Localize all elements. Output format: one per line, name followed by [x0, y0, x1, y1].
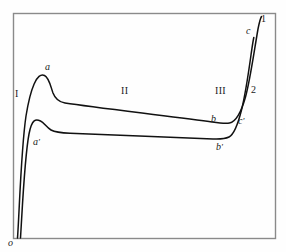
region-label-ii: II [121, 86, 128, 96]
region-label-iii: III [215, 86, 226, 96]
figure-container: I II III 1 2 a a' b b' c c' o [0, 0, 286, 252]
point-label-a: a [45, 62, 50, 72]
point-label-c: c [246, 26, 250, 36]
point-label-b: b [211, 114, 216, 124]
curve-number-2: 2 [251, 85, 256, 95]
wear-curve-plot [0, 0, 286, 252]
curve-number-1: 1 [261, 14, 266, 24]
origin-label: o [8, 238, 13, 248]
point-label-b-prime: b' [216, 142, 223, 152]
point-label-a-prime-mark: ' [38, 137, 40, 147]
point-label-a-prime: a' [33, 137, 40, 147]
point-label-b-prime-mark: ' [221, 142, 223, 152]
region-label-i: I [15, 89, 19, 99]
point-label-c-prime-mark: ' [242, 116, 244, 126]
point-label-c-prime: c' [238, 116, 244, 126]
